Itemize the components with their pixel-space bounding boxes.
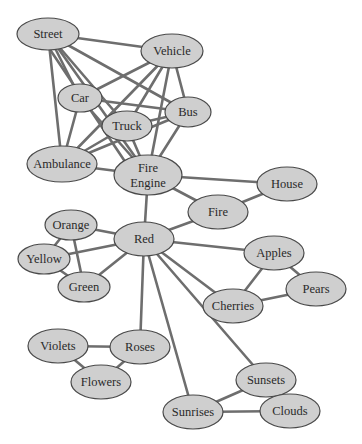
- node-violets: Violets: [28, 329, 88, 363]
- node-apples: Apples: [244, 236, 304, 270]
- node-red: Red: [114, 222, 174, 256]
- node-label: Truck: [112, 119, 142, 133]
- node-label: Violets: [40, 339, 75, 353]
- node-label: Fire: [208, 205, 229, 219]
- node-bus: Bus: [165, 97, 211, 127]
- node-label: Red: [134, 232, 155, 246]
- node-label: Roses: [125, 340, 155, 354]
- node-vehicle: Vehicle: [141, 34, 203, 68]
- node-label: Fire: [138, 161, 159, 175]
- node-label: Green: [69, 280, 100, 294]
- node-ambulance: Ambulance: [27, 146, 97, 182]
- semantic-network-diagram: StreetVehicleCarBusTruckAmbulanceFireEng…: [0, 0, 362, 444]
- node-label: House: [271, 177, 303, 191]
- node-fire: Fire: [188, 195, 248, 229]
- node-pears: Pears: [286, 272, 346, 306]
- node-street: Street: [17, 18, 79, 50]
- node-house: House: [257, 167, 317, 201]
- node-label: Flowers: [81, 375, 121, 389]
- node-car: Car: [58, 84, 102, 112]
- node-clouds: Clouds: [260, 394, 320, 428]
- node-flowers: Flowers: [71, 365, 131, 399]
- node-label: Cherries: [212, 299, 254, 313]
- node-cherries: Cherries: [203, 289, 263, 323]
- edge-red-sunrises: [144, 239, 193, 412]
- node-sunrises: Sunrises: [163, 395, 223, 429]
- node-label: Bus: [178, 105, 198, 119]
- node-sunsets: Sunsets: [236, 363, 296, 397]
- node-label: Apples: [256, 246, 292, 260]
- node-label: Orange: [53, 218, 90, 232]
- node-label: Sunsets: [247, 373, 285, 387]
- node-orange: Orange: [45, 210, 97, 240]
- node-label: Car: [71, 91, 90, 105]
- node-roses: Roses: [110, 330, 170, 364]
- node-label: Clouds: [272, 404, 308, 418]
- node-truck: Truck: [102, 111, 152, 141]
- node-fire-engine: FireEngine: [114, 155, 182, 195]
- node-green: Green: [58, 272, 110, 302]
- node-label: Pears: [302, 282, 329, 296]
- node-yellow: Yellow: [18, 244, 70, 274]
- node-label: Yellow: [26, 252, 62, 266]
- node-label: Engine: [130, 176, 166, 190]
- node-label: Ambulance: [33, 157, 91, 171]
- node-label: Vehicle: [153, 44, 191, 58]
- node-label: Street: [33, 27, 63, 41]
- node-label: Sunrises: [172, 405, 215, 419]
